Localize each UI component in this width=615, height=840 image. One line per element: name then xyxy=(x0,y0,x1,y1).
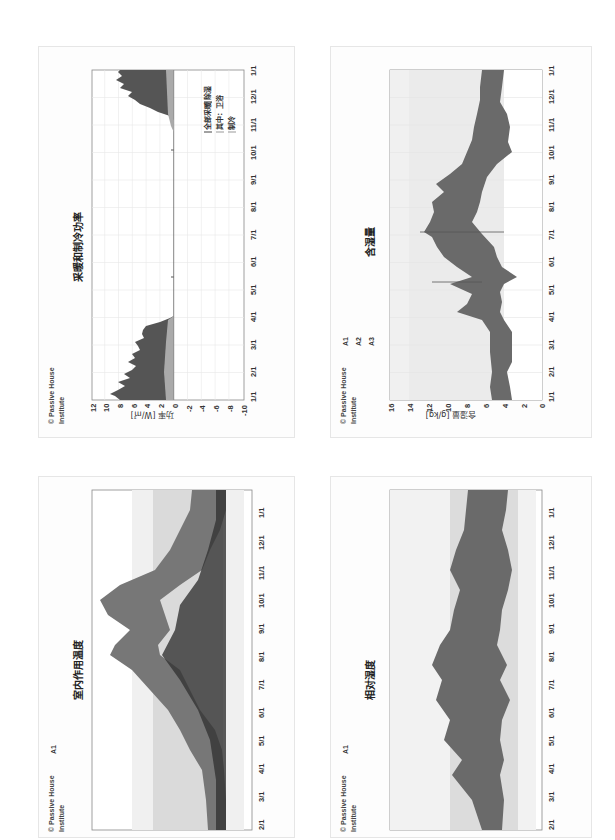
svg-text:11/1: 11/1 xyxy=(249,118,258,132)
svg-text:4/1: 4/1 xyxy=(547,764,556,774)
svg-text:8/1: 8/1 xyxy=(257,652,266,662)
chart-title: 含湿量 xyxy=(364,227,376,257)
credit-text: © Passive House xyxy=(48,367,55,424)
chart-moisture-content: © Passive House Institute 含湿量 A1 A2 xyxy=(332,48,588,432)
chart-operative-temperature: © Passive House Institute 室内作用温度 A1 2/1 … xyxy=(40,480,290,840)
legend: A1 xyxy=(50,745,57,754)
x-axis: 2/1 3/1 4/1 5/1 6/1 7/1 8/1 9/1 10/1 11/… xyxy=(257,508,266,830)
svg-text:10: 10 xyxy=(102,404,111,412)
svg-text:10/1: 10/1 xyxy=(257,593,266,608)
svg-text:1/1: 1/1 xyxy=(547,508,556,518)
svg-text:6/1: 6/1 xyxy=(547,708,556,718)
svg-text:6/1: 6/1 xyxy=(257,708,266,718)
svg-text:9/1: 9/1 xyxy=(547,175,556,185)
svg-text:12/1: 12/1 xyxy=(257,535,266,550)
plot-area xyxy=(390,70,542,400)
svg-text:9/1: 9/1 xyxy=(249,175,258,185)
svg-text:9/1: 9/1 xyxy=(257,624,266,634)
x-axis: 1/1 2/1 3/1 4/1 5/1 6/1 7/1 8/1 9/1 10/1… xyxy=(249,66,258,402)
y-axis-label: 功率 [W/㎡] xyxy=(131,410,174,420)
svg-text:12/1: 12/1 xyxy=(547,89,556,104)
chart-title: 室内作用温度 xyxy=(72,639,84,700)
svg-text:6: 6 xyxy=(482,404,491,408)
svg-text:4/1: 4/1 xyxy=(257,764,266,774)
svg-text:2/1: 2/1 xyxy=(249,367,258,377)
svg-text:4/1: 4/1 xyxy=(249,312,258,322)
x-axis: 1/1 2/1 3/1 4/1 5/1 6/1 7/1 8/1 9/1 10/1… xyxy=(547,66,556,402)
svg-text:A1: A1 xyxy=(50,745,57,754)
svg-text:12/1: 12/1 xyxy=(547,535,556,550)
svg-text:4/1: 4/1 xyxy=(547,312,556,322)
svg-text:10/1: 10/1 xyxy=(547,145,556,160)
svg-text:4: 4 xyxy=(501,403,510,408)
svg-text:2: 2 xyxy=(157,404,166,408)
legend: A1 xyxy=(342,745,349,754)
svg-text:9/1: 9/1 xyxy=(547,624,556,634)
svg-text:3/1: 3/1 xyxy=(257,792,266,802)
legend-item: 制冷 xyxy=(227,116,236,130)
legend-item: A2 xyxy=(355,337,362,346)
svg-text:2: 2 xyxy=(520,404,529,408)
legend-item: A3 xyxy=(368,337,375,346)
svg-text:6: 6 xyxy=(130,404,139,408)
svg-text:3/1: 3/1 xyxy=(249,340,258,350)
svg-text:Institute: Institute xyxy=(350,805,357,832)
svg-text:1/1: 1/1 xyxy=(547,392,556,402)
y-axis: 12 10 8 6 4 2 0 -2 -4 -6 -8 -10 功率 [W/㎡] xyxy=(89,403,249,420)
svg-text:7/1: 7/1 xyxy=(249,230,258,240)
credit-text-2: Institute xyxy=(58,397,65,424)
svg-text:16: 16 xyxy=(387,404,396,412)
svg-text:11/1: 11/1 xyxy=(547,566,556,580)
y-axis: 16 14 12 10 8 6 4 2 0 含湿量 [g/kg] xyxy=(387,403,547,420)
svg-text:A1: A1 xyxy=(342,745,349,754)
svg-text:7/1: 7/1 xyxy=(257,680,266,690)
legend-item: 除湿 xyxy=(203,86,212,100)
svg-text:2/1: 2/1 xyxy=(547,367,556,377)
svg-text:1/1: 1/1 xyxy=(249,392,258,402)
svg-text:5/1: 5/1 xyxy=(547,736,556,746)
svg-text:Institute: Institute xyxy=(58,805,65,832)
svg-text:12: 12 xyxy=(89,404,98,412)
svg-text:2/1: 2/1 xyxy=(547,820,556,830)
svg-text:-4: -4 xyxy=(198,405,207,412)
x-axis: 2/1 3/1 4/1 5/1 6/1 7/1 8/1 9/1 10/1 11/… xyxy=(547,508,556,830)
svg-text:14: 14 xyxy=(406,403,415,412)
legend-item: 其中：卫浴 xyxy=(215,94,224,130)
svg-text:8: 8 xyxy=(116,404,125,408)
svg-text:Institute: Institute xyxy=(350,397,357,424)
svg-text:2/1: 2/1 xyxy=(257,820,266,830)
chart-title: 采暖和制冷功率 xyxy=(72,212,84,283)
svg-text:3/1: 3/1 xyxy=(547,792,556,802)
svg-text:10/1: 10/1 xyxy=(249,145,258,160)
plot-area xyxy=(92,490,252,830)
svg-text:3/1: 3/1 xyxy=(547,340,556,350)
chart-title: 相对湿度 xyxy=(364,659,376,700)
svg-text:1/1: 1/1 xyxy=(249,66,258,76)
svg-text:11/1: 11/1 xyxy=(257,566,266,580)
svg-text:6/1: 6/1 xyxy=(249,257,258,267)
svg-text:12/1: 12/1 xyxy=(249,89,258,104)
svg-text:8: 8 xyxy=(463,404,472,408)
svg-text:© Passive House: © Passive House xyxy=(48,775,55,832)
chart-relative-humidity: © Passive House Institute 相对湿度 A1 2/1 3/… xyxy=(332,480,588,840)
legend-item: A1 xyxy=(342,337,349,346)
svg-text:© Passive House: © Passive House xyxy=(340,775,347,832)
plot-area xyxy=(390,490,542,830)
svg-text:7/1: 7/1 xyxy=(547,230,556,240)
svg-text:8/1: 8/1 xyxy=(547,202,556,212)
svg-text:0: 0 xyxy=(171,404,180,408)
svg-text:4: 4 xyxy=(143,403,152,408)
svg-text:8/1: 8/1 xyxy=(547,652,556,662)
y-axis-label: 含湿量 [g/kg] xyxy=(426,410,476,420)
svg-text:7/1: 7/1 xyxy=(547,680,556,690)
svg-text:1/1: 1/1 xyxy=(257,508,266,518)
svg-text:-10: -10 xyxy=(240,405,249,416)
svg-text:-8: -8 xyxy=(226,405,235,412)
svg-text:8/1: 8/1 xyxy=(249,202,258,212)
svg-text:0: 0 xyxy=(538,404,547,408)
svg-text:5/1: 5/1 xyxy=(257,736,266,746)
legend-item: 全部采暖 xyxy=(203,101,212,131)
svg-text:-2: -2 xyxy=(185,405,194,412)
svg-text:5/1: 5/1 xyxy=(547,285,556,295)
svg-text:1/1: 1/1 xyxy=(547,66,556,76)
